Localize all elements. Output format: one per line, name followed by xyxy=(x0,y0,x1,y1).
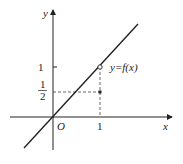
function-label: y=f(x) xyxy=(109,61,138,74)
origin-label: O xyxy=(57,120,65,132)
x-tick-label-1: 1 xyxy=(97,120,103,132)
y-tick-label-half-num: 1 xyxy=(40,78,46,90)
y-tick-label-1: 1 xyxy=(38,61,44,73)
filled-point xyxy=(99,91,102,94)
x-axis-label: x xyxy=(162,120,168,132)
y-tick-label-half-den: 2 xyxy=(40,90,46,102)
y-axis-label: y xyxy=(42,7,48,19)
function-graph: y x O 1 1 1 2 y=f(x) xyxy=(0,0,183,164)
open-point xyxy=(98,65,102,69)
